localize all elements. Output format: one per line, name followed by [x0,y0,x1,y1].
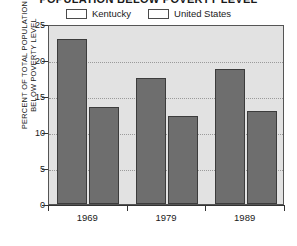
y-tick-mark [42,25,48,26]
y-tick-mark [42,169,48,170]
bar-kentucky-1979 [136,78,166,204]
legend-swatch-united-states [148,9,169,19]
y-tick-mark [42,133,48,134]
bar-united-states-1969 [89,107,119,204]
bar-kentucky-1969 [57,39,87,204]
chart-title: POPULATION BELOW POVERTY LEVEL [0,0,297,4]
x-tick-label-1979: 1979 [136,212,196,223]
y-tick-mark [42,97,48,98]
plot-area [48,25,284,205]
x-tick-mark [48,205,49,211]
x-axis-line [48,205,284,206]
legend-swatch-kentucky [66,9,87,19]
bar-kentucky-1989 [215,69,245,204]
x-tick-label-1969: 1969 [57,212,117,223]
x-tick-mark [127,205,128,211]
legend-label-united-states: United States [174,8,231,19]
legend-item-kentucky: Kentucky [66,8,131,19]
bar-united-states-1989 [247,111,277,204]
chart-legend: Kentucky United States [0,7,297,20]
legend-label-kentucky: Kentucky [92,8,131,19]
bars [49,26,283,204]
bar-united-states-1979 [168,116,198,204]
x-tick-label-1989: 1989 [215,212,275,223]
poverty-level-bar-chart: POPULATION BELOW POVERTY LEVEL Kentucky … [0,0,297,246]
legend-item-united-states: United States [148,8,231,19]
y-tick-mark [42,61,48,62]
x-tick-mark [205,205,206,211]
x-tick-mark [284,205,285,211]
